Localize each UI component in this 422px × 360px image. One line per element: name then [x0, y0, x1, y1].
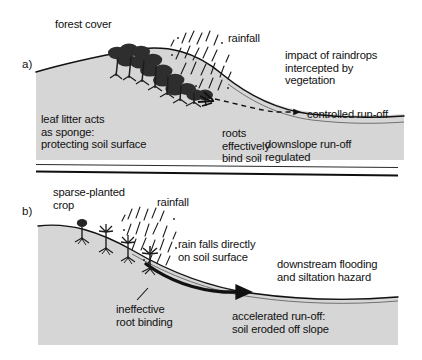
label-rain-falls-directly: rain falls directly on soil surface	[178, 238, 255, 263]
label-downstream-flooding: downstream flooding and siltation hazard	[277, 258, 377, 283]
label-roots-bind-soil: roots effectively bind soil	[222, 127, 270, 165]
label-rainfall-a: rainfall	[228, 32, 260, 45]
label-forest-cover: forest cover	[55, 18, 112, 31]
label-controlled-runoff: controlled run-off	[307, 108, 388, 121]
label-sparse-planted-crop: sparse-planted crop	[53, 186, 125, 211]
label-rainfall-b: rainfall	[157, 196, 189, 209]
panel-b-tag: b)	[22, 205, 32, 217]
label-downslope-runoff: downslope run-off regulated	[265, 138, 351, 163]
divider-thick	[36, 172, 398, 176]
label-ineffective-root-binding: ineffective root binding	[116, 303, 173, 328]
panel-dividers	[36, 165, 398, 176]
panel-a-tag: a)	[22, 58, 32, 70]
label-accelerated-runoff: accelerated run-off: soil eroded off slo…	[232, 310, 329, 335]
divider-thin	[36, 165, 398, 168]
diagram-canvas: a) forest cover rainfall impact of raind…	[0, 0, 422, 360]
label-impact-of-raindrops: impact of raindrops intercepted by veget…	[285, 49, 377, 87]
label-leaf-litter: leaf litter acts as sponge: protecting s…	[41, 113, 146, 151]
